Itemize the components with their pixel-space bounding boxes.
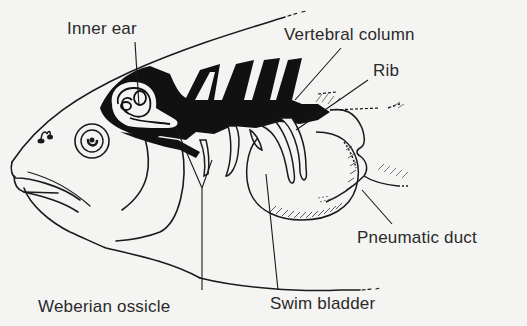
leader-swim-bladder — [266, 174, 278, 290]
label-weberian-ossicle: Weberian ossicle — [38, 298, 170, 315]
fish-anatomy-diagram: Inner ear Vertebral column Rib Pneumatic… — [0, 0, 527, 326]
label-pneumatic-duct: Pneumatic duct — [357, 229, 477, 246]
pneumatic-duct-shape — [318, 92, 410, 202]
fish-illustration — [0, 0, 527, 326]
leader-pneumatic-duct — [362, 190, 392, 224]
label-swim-bladder: Swim bladder — [270, 295, 375, 312]
ventral-outline — [200, 278, 360, 291]
lower-jaw — [14, 176, 78, 212]
operculum-inner — [122, 138, 148, 210]
snout-outline — [11, 162, 80, 200]
operculum-outer — [116, 148, 184, 241]
nostril — [38, 131, 54, 143]
label-vertebral-column: Vertebral column — [284, 26, 415, 43]
label-inner-ear: Inner ear — [67, 20, 137, 37]
label-rib: Rib — [373, 62, 399, 79]
